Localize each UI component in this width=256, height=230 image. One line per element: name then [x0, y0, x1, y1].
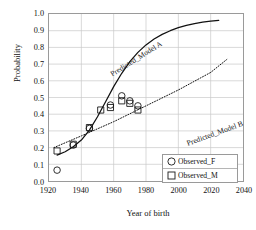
- y-tick-label: 0.7: [2, 59, 48, 68]
- circle-marker-icon: [166, 156, 177, 167]
- legend-label-observed-m: Observed_M: [177, 171, 218, 180]
- x-axis-title: Year of birth: [48, 208, 248, 218]
- y-tick-label: 0.8: [2, 42, 48, 51]
- data-point-circle: [135, 103, 142, 110]
- y-tick-label: 0.4: [2, 110, 48, 119]
- y-axis-title: Probability: [12, 8, 22, 118]
- y-tick-label: 0.3: [2, 127, 48, 136]
- data-point-circle: [127, 98, 134, 105]
- y-tick-label: 0.5: [2, 93, 48, 102]
- legend-item-observed-m: Observed_M: [163, 168, 237, 182]
- data-point-circle: [54, 167, 61, 174]
- chart-legend: Observed_F Observed_M: [162, 154, 238, 183]
- y-tick-label: 0.1: [2, 161, 48, 170]
- x-axis-tick-labels: 1920194019601980200020202040: [0, 186, 256, 202]
- data-series-layer: [54, 20, 227, 173]
- y-tick-label: 0.2: [2, 144, 48, 153]
- legend-label-observed-f: Observed_F: [177, 157, 215, 166]
- y-tick-label: 0.9: [2, 25, 48, 34]
- legend-item-observed-f: Observed_F: [163, 155, 237, 168]
- data-point-square: [54, 148, 60, 154]
- data-point-circle: [107, 102, 114, 109]
- chart-figure: 0.00.10.20.30.40.50.60.70.80.91.0 Probab…: [0, 0, 256, 230]
- y-tick-label: 0.6: [2, 76, 48, 85]
- y-tick-label: 1.0: [2, 9, 48, 18]
- square-marker-icon: [166, 170, 177, 181]
- x-tick-label: 2040: [222, 186, 256, 195]
- plot-area: Predicted_Model A Predicted_Model B Obse…: [48, 13, 244, 182]
